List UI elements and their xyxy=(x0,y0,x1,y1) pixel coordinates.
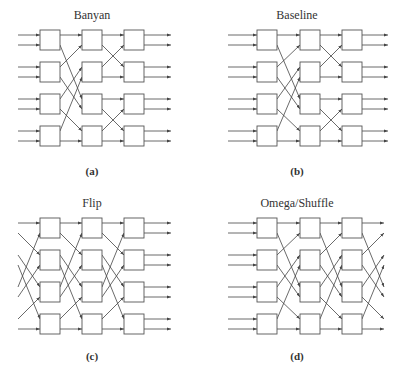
switch-box xyxy=(257,314,277,334)
banyan-switch-boxes xyxy=(40,30,144,146)
switch-box xyxy=(82,282,102,302)
panel-title-flip: Flip xyxy=(82,196,101,210)
connection-line xyxy=(60,45,82,67)
switch-box xyxy=(257,250,277,270)
interconnection-network-figure: Banyan (a) Baseline (b) Flip (c) Omega/S… xyxy=(0,0,401,378)
switch-box xyxy=(82,126,102,146)
switch-box xyxy=(124,126,144,146)
switch-box xyxy=(82,94,102,114)
flip-switch-boxes xyxy=(40,218,144,334)
switch-box xyxy=(257,126,277,146)
switch-box xyxy=(82,62,102,82)
switch-box xyxy=(342,218,362,238)
switch-box xyxy=(40,282,60,302)
switch-box xyxy=(82,250,102,270)
switch-box xyxy=(300,218,320,238)
switch-box xyxy=(300,62,320,82)
baseline-switch-boxes xyxy=(257,30,362,146)
switch-box xyxy=(300,126,320,146)
switch-box xyxy=(257,62,277,82)
baseline-wires xyxy=(228,35,388,141)
connection-line xyxy=(277,109,300,131)
switch-box xyxy=(300,314,320,334)
banyan-wires xyxy=(18,35,171,141)
switch-box xyxy=(342,250,362,270)
switch-box xyxy=(300,94,320,114)
panel-flip: Flip (c) xyxy=(18,196,171,363)
panel-title-banyan: Banyan xyxy=(74,8,111,22)
omega-switch-boxes xyxy=(257,218,362,334)
switch-box xyxy=(300,30,320,50)
switch-box xyxy=(40,218,60,238)
panel-banyan: Banyan (a) xyxy=(18,8,171,178)
switch-box xyxy=(257,218,277,238)
switch-box xyxy=(40,250,60,270)
connection-line xyxy=(277,297,300,319)
switch-box xyxy=(124,314,144,334)
connection-line xyxy=(102,297,124,319)
switch-box xyxy=(40,126,60,146)
switch-box xyxy=(342,30,362,50)
connection-line xyxy=(320,297,342,319)
panel-title-baseline: Baseline xyxy=(276,8,317,22)
flip-wires xyxy=(18,223,171,329)
switch-box xyxy=(300,282,320,302)
panel-title-omega-shuffle: Omega/Shuffle xyxy=(260,196,333,210)
switch-box xyxy=(257,30,277,50)
connection-line xyxy=(277,233,300,255)
panel-caption-d: (d) xyxy=(290,350,304,363)
switch-box xyxy=(124,282,144,302)
switch-box xyxy=(124,94,144,114)
connection-line xyxy=(60,297,82,319)
omega-wires xyxy=(228,223,384,329)
connection-line xyxy=(18,233,40,255)
switch-box xyxy=(82,218,102,238)
switch-box xyxy=(342,282,362,302)
output-line xyxy=(362,297,384,319)
connection-line xyxy=(60,233,82,255)
panel-caption-c: (c) xyxy=(86,350,99,363)
switch-box xyxy=(257,94,277,114)
switch-box xyxy=(124,250,144,270)
switch-box xyxy=(342,126,362,146)
switch-box xyxy=(40,30,60,50)
panel-caption-a: (a) xyxy=(86,165,99,178)
switch-box xyxy=(342,314,362,334)
output-line xyxy=(362,233,384,255)
switch-box xyxy=(257,282,277,302)
connection-line xyxy=(277,45,300,67)
connection-line xyxy=(18,297,40,319)
switch-box xyxy=(40,314,60,334)
switch-box xyxy=(82,30,102,50)
switch-box xyxy=(342,62,362,82)
switch-box xyxy=(124,30,144,50)
connection-line xyxy=(320,233,342,255)
switch-box xyxy=(124,218,144,238)
panel-omega-shuffle: Omega/Shuffle (d) xyxy=(228,196,384,363)
panel-caption-b: (b) xyxy=(290,165,304,178)
switch-box xyxy=(300,250,320,270)
switch-box xyxy=(40,62,60,82)
switch-box xyxy=(82,314,102,334)
connection-line xyxy=(102,233,124,255)
connection-line xyxy=(60,109,82,131)
switch-box xyxy=(40,94,60,114)
switch-box xyxy=(342,94,362,114)
switch-box xyxy=(124,62,144,82)
panel-baseline: Baseline (b) xyxy=(228,8,388,178)
